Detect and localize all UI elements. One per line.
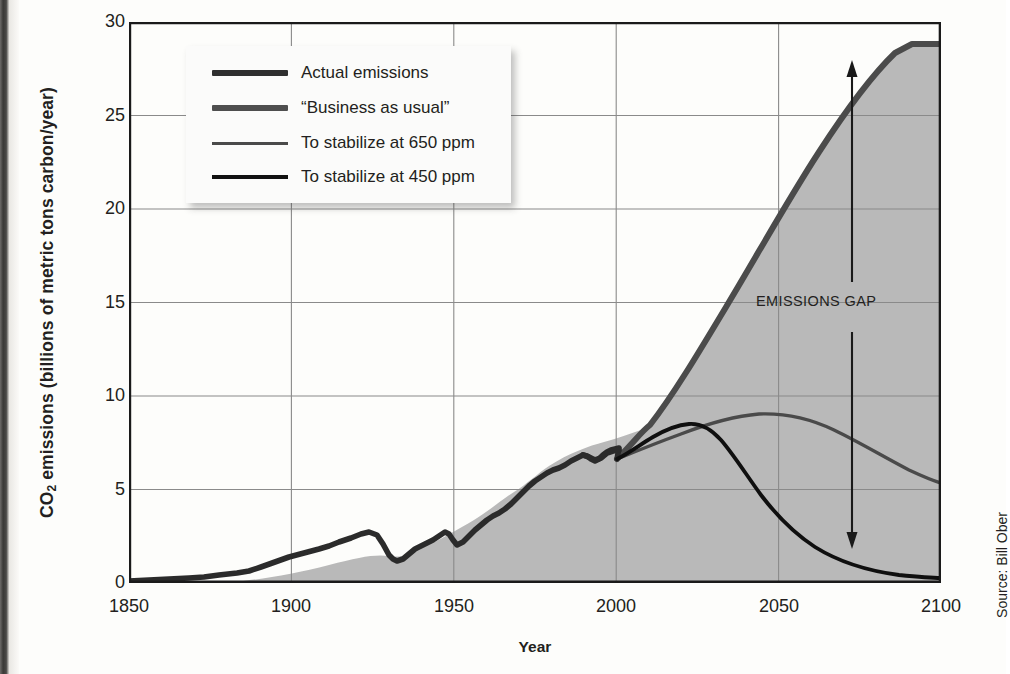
y-axis-title-prefix: CO [37, 492, 57, 518]
legend-swatch-actual-emissions [212, 70, 288, 76]
scan-spine-shadow [0, 0, 9, 674]
legend-label-actual-emissions: Actual emissions [301, 63, 429, 83]
x-axis-title: Year [129, 638, 941, 656]
y-axis-title: CO2 emissions (billions of metric tons c… [37, 33, 58, 573]
x-tick-label-1900: 1900 [246, 596, 336, 617]
legend-label-business-as-usual: “Business as usual” [301, 98, 449, 118]
y-tick-label-15: 15 [85, 292, 125, 313]
y-tick-label-30: 30 [85, 11, 125, 32]
legend-swatch-stabilize-650 [212, 142, 288, 145]
legend-label-stabilize-450: To stabilize at 450 ppm [301, 167, 475, 187]
legend-item-actual-emissions[interactable]: Actual emissions [212, 56, 429, 90]
source-credit: Source: Bill Ober [994, 475, 1010, 655]
legend-item-business-as-usual[interactable]: “Business as usual” [212, 91, 449, 125]
y-tick-label-5: 5 [85, 479, 125, 500]
legend-item-stabilize-450[interactable]: To stabilize at 450 ppm [212, 160, 475, 194]
y-tick-label-25: 25 [85, 105, 125, 126]
legend-swatch-business-as-usual [212, 105, 288, 111]
x-tick-label-2000: 2000 [571, 596, 661, 617]
legend-item-stabilize-650[interactable]: To stabilize at 650 ppm [212, 126, 475, 160]
y-tick-label-20: 20 [85, 198, 125, 219]
y-tick-label-0: 0 [85, 572, 125, 593]
x-tick-label-1850: 1850 [84, 596, 174, 617]
chart-legend: Actual emissions “Business as usual” To … [186, 46, 511, 203]
x-tick-label-2100: 2100 [896, 596, 986, 617]
scan-page-edge [9, 0, 19, 674]
x-tick-label-1950: 1950 [409, 596, 499, 617]
y-axis-title-suffix: emissions (billions of metric tons carbo… [37, 87, 57, 485]
y-tick-label-10: 10 [85, 385, 125, 406]
x-tick-label-2050: 2050 [734, 596, 824, 617]
legend-swatch-stabilize-450 [212, 175, 288, 179]
legend-label-stabilize-650: To stabilize at 650 ppm [301, 133, 475, 153]
y-axis-title-subscript: 2 [45, 485, 59, 492]
emissions-gap-label: EMISSIONS GAP [756, 293, 876, 309]
